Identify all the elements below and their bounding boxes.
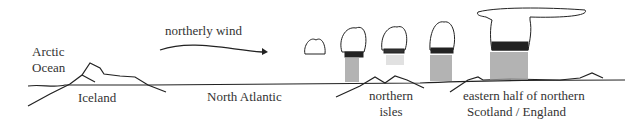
eastern-label-1: eastern half of northern — [463, 88, 585, 103]
wind-label: northerly wind — [165, 23, 242, 38]
cumulus-clouds — [305, 8, 586, 57]
arctic-ocean-label-1: Arctic — [32, 44, 64, 59]
north-atlantic-label: North Atlantic — [207, 89, 282, 104]
northern-isles-label-1: northern — [363, 88, 419, 103]
arctic-ocean-label-2: Ocean — [32, 60, 65, 75]
wind-arrow — [160, 45, 262, 52]
sea-surface-line — [28, 80, 625, 86]
rain-shafts — [345, 52, 528, 82]
diagram-canvas: Arctic Ocean northerly wind Iceland Nort… — [0, 0, 629, 128]
arrowhead-icon — [262, 48, 268, 55]
northern-isles-label-2: isles — [363, 104, 419, 119]
iceland-label: Iceland — [78, 90, 116, 105]
eastern-label-2: Scotland / England — [467, 104, 566, 119]
